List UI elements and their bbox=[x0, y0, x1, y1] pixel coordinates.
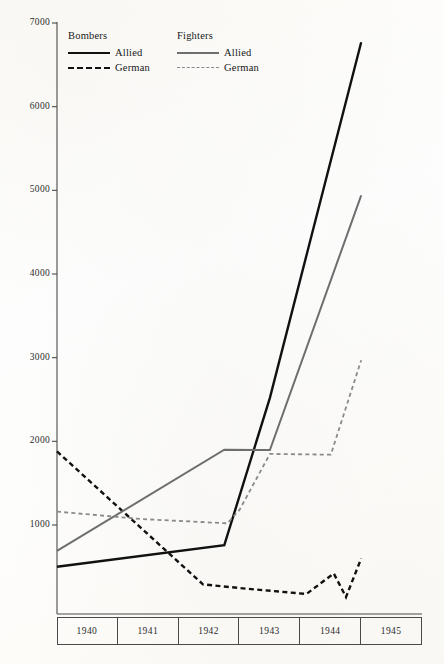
legend-group-fighters: Fighters Allied German bbox=[177, 30, 259, 75]
data-series-group bbox=[57, 42, 361, 597]
legend-swatch-solid-grey-icon bbox=[177, 52, 219, 54]
y-tick-label-2000: 2000 bbox=[12, 435, 50, 445]
legend-label-bombers-german: German bbox=[115, 62, 150, 73]
x-axis-cell-1944: 1944 bbox=[300, 617, 361, 645]
legend-item-fighters-allied: Allied bbox=[177, 45, 259, 60]
x-axis-cell-1942: 1942 bbox=[179, 617, 240, 645]
legend-swatch-dashed-black-icon bbox=[68, 67, 110, 69]
legend-group-title-bombers: Bombers bbox=[68, 30, 150, 41]
legend-group-bombers: Bombers Allied German bbox=[68, 30, 150, 75]
legend-label-fighters-german: German bbox=[224, 62, 259, 73]
line-chart-plot bbox=[0, 0, 444, 664]
y-tick-marks bbox=[52, 23, 57, 525]
legend-label-bombers-allied: Allied bbox=[115, 47, 142, 58]
y-tick-label-1000: 1000 bbox=[12, 519, 50, 529]
y-axis-tick-labels: 7000600050004000300020001000 bbox=[8, 0, 50, 664]
legend-group-title-fighters: Fighters bbox=[177, 30, 259, 41]
y-tick-label-7000: 7000 bbox=[12, 17, 50, 27]
series-line-bombers-allied bbox=[57, 42, 361, 567]
x-axis-cell-1941: 1941 bbox=[118, 617, 179, 645]
y-tick-label-4000: 4000 bbox=[12, 268, 50, 278]
legend-item-bombers-allied: Allied bbox=[68, 45, 150, 60]
legend-swatch-dashed-grey-icon bbox=[177, 67, 219, 68]
x-axis-cell-1945: 1945 bbox=[361, 617, 422, 645]
y-tick-label-6000: 6000 bbox=[12, 101, 50, 111]
x-axis-cell-1940: 1940 bbox=[57, 617, 118, 645]
legend-label-fighters-allied: Allied bbox=[224, 47, 251, 58]
y-tick-label-3000: 3000 bbox=[12, 352, 50, 362]
chart-figure: 7000600050004000300020001000 Bombers All… bbox=[0, 0, 444, 664]
legend-item-bombers-german: German bbox=[68, 60, 150, 75]
series-line-fighters-german bbox=[57, 360, 361, 523]
x-axis-year-cells: 194019411942194319441945 bbox=[57, 617, 422, 645]
axis-group bbox=[57, 22, 422, 614]
series-line-fighters-allied bbox=[57, 195, 361, 551]
y-tick-label-5000: 5000 bbox=[12, 184, 50, 194]
legend-item-fighters-german: German bbox=[177, 60, 259, 75]
x-axis-cell-1943: 1943 bbox=[239, 617, 300, 645]
legend-swatch-solid-black-icon bbox=[68, 52, 110, 54]
